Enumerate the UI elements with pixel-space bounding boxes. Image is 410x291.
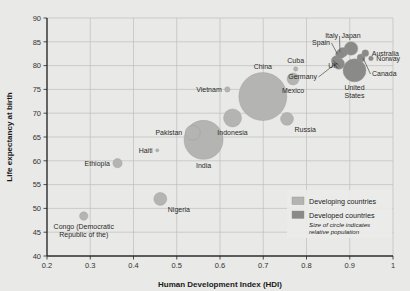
bubble-chart: 0.20.30.40.50.60.70.80.91404550556065707… bbox=[0, 0, 410, 291]
bubble-ethiopia bbox=[113, 159, 122, 168]
y-tick-label: 90 bbox=[33, 14, 41, 23]
point-label-mexico: Mexico bbox=[282, 87, 304, 94]
bubble-pakistan bbox=[185, 125, 200, 140]
x-axis-title: Human Development Index (HDI) bbox=[158, 280, 282, 289]
legend-note-line2: relative population bbox=[309, 228, 360, 235]
legend-label-developed: Developed countries bbox=[309, 211, 375, 220]
bubble-haiti bbox=[156, 149, 159, 152]
point-label-canada: Canada bbox=[372, 70, 397, 77]
point-label-italy: Italy bbox=[325, 32, 338, 40]
bubble-china bbox=[239, 73, 287, 121]
bubble-congo-democratic-republic-of-the bbox=[80, 212, 88, 220]
point-label-nigeria: Nigeria bbox=[168, 206, 190, 214]
point-label-spain: Spain bbox=[312, 39, 330, 47]
y-tick-label: 60 bbox=[33, 157, 41, 166]
point-label-russia: Russia bbox=[294, 126, 316, 133]
legend-swatch-developing bbox=[292, 197, 304, 205]
point-label-united-states: UnitedStates bbox=[344, 84, 365, 99]
point-label-pakistan: Pakistan bbox=[155, 129, 182, 136]
point-label-germany: Germany bbox=[288, 73, 317, 81]
x-tick-label: 1 bbox=[391, 261, 395, 270]
bubble-nigeria bbox=[154, 192, 167, 205]
bubble-cuba bbox=[293, 67, 297, 71]
bubble-indonesia bbox=[224, 109, 242, 127]
point-label-haiti: Haiti bbox=[139, 147, 153, 154]
bubble-australia bbox=[362, 50, 369, 57]
point-label-japan: Japan bbox=[342, 32, 361, 40]
point-label-vietnam: Vietnam bbox=[196, 86, 222, 93]
chart-container: 0.20.30.40.50.60.70.80.91404550556065707… bbox=[0, 0, 410, 291]
chart-legend: Developing countriesDeveloped countriesS… bbox=[287, 190, 392, 238]
y-axis-title: Life expectancy at birth bbox=[5, 92, 14, 181]
point-label-indonesia: Indonesia bbox=[217, 129, 247, 136]
x-tick-label: 0.3 bbox=[85, 261, 95, 270]
x-tick-label: 0.4 bbox=[128, 261, 138, 270]
x-tick-label: 0.6 bbox=[215, 261, 225, 270]
y-tick-label: 45 bbox=[33, 228, 41, 237]
point-label-norway: Norway bbox=[376, 55, 400, 63]
point-label-uk: UK bbox=[328, 62, 338, 69]
y-tick-label: 75 bbox=[33, 85, 41, 94]
y-tick-label: 80 bbox=[33, 61, 41, 70]
y-tick-label: 70 bbox=[33, 109, 41, 118]
bubble-vietnam bbox=[225, 87, 230, 92]
y-tick-label: 50 bbox=[33, 204, 41, 213]
y-tick-label: 65 bbox=[33, 133, 41, 142]
bubble-russia bbox=[281, 113, 294, 126]
x-tick-label: 0.8 bbox=[301, 261, 311, 270]
point-label-congo-democratic-republic-of-the: Congo (DemocraticRepublic of the) bbox=[54, 223, 115, 239]
point-label-ethiopia: Ethiopia bbox=[85, 160, 110, 168]
legend-note-line1: Size of circle indicates bbox=[309, 221, 370, 228]
y-tick-label: 85 bbox=[33, 38, 41, 47]
y-tick-label: 55 bbox=[33, 180, 41, 189]
x-tick-label: 0.5 bbox=[172, 261, 182, 270]
point-label-china: China bbox=[254, 63, 272, 70]
legend-swatch-developed bbox=[292, 211, 304, 219]
legend-label-developing: Developing countries bbox=[309, 197, 377, 206]
y-tick-label: 40 bbox=[33, 252, 41, 261]
x-tick-label: 0.7 bbox=[258, 261, 268, 270]
bubble-united-states bbox=[343, 59, 366, 82]
bubble-norway bbox=[369, 56, 374, 61]
point-label-india: India bbox=[196, 162, 211, 169]
x-tick-label: 0.9 bbox=[345, 261, 355, 270]
point-label-cuba: Cuba bbox=[287, 57, 304, 64]
x-tick-label: 0.2 bbox=[42, 261, 52, 270]
